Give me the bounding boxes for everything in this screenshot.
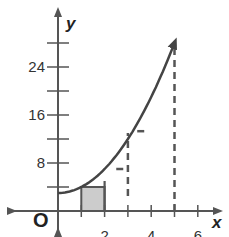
shaded-rectangle [81,187,104,211]
x-tick-label: 4 [147,227,155,237]
curve-line [58,43,175,193]
chart: 246 x 81624 y O [0,0,229,237]
y-axis-label: y [65,14,77,33]
x-tick-label: 6 [194,227,202,237]
x-tick-label: 2 [100,227,108,237]
origin-label: O [33,209,49,231]
y-tick-label: 24 [28,58,45,75]
y-tick-label: 16 [28,106,45,123]
x-axis-label: x [211,213,223,232]
y-axis: 81624 y [28,12,77,232]
dashed-segments [116,43,174,211]
y-tick-label: 8 [37,154,45,171]
